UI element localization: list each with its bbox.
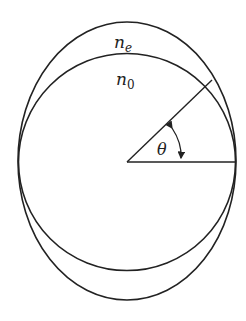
no-label: n0: [116, 69, 135, 92]
index-ellipsoid-diagram: ne n0 θ: [0, 0, 246, 321]
angle-arrow-icon: [172, 128, 181, 158]
radial-line: [127, 80, 212, 162]
extraordinary-ellipse: [18, 22, 236, 300]
theta-label: θ: [157, 140, 167, 159]
ne-label: ne: [114, 32, 132, 55]
